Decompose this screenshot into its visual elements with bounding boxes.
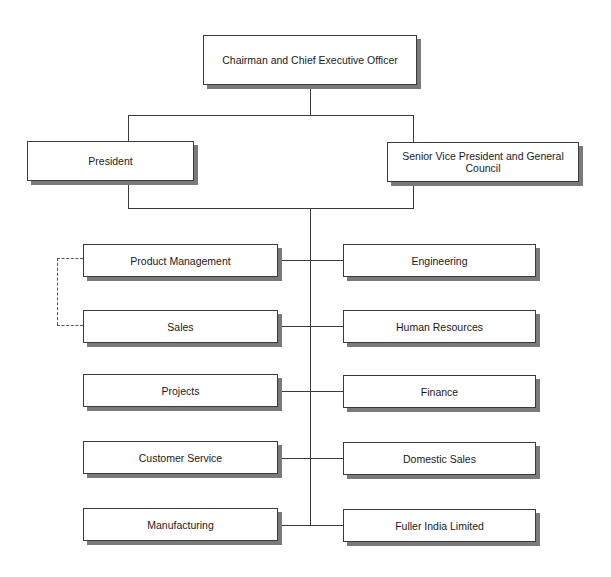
row-connector-2 <box>277 326 343 327</box>
dept-fuller-india-limited: Fuller India Limited <box>343 509 536 542</box>
row-connector-5 <box>277 525 343 526</box>
dept-finance: Finance <box>343 375 536 408</box>
dept-human-resources: Human Resources <box>343 310 536 343</box>
dept-label: Engineering <box>411 255 467 267</box>
row-connector-4 <box>277 458 343 459</box>
dept-sales: Sales <box>83 310 278 343</box>
dept-engineering: Engineering <box>343 244 536 277</box>
dept-domestic-sales: Domestic Sales <box>343 442 536 475</box>
svp-label: Senior Vice President and General Counci… <box>388 150 578 174</box>
dept-label: Manufacturing <box>147 519 214 531</box>
ceo-connector <box>310 85 311 115</box>
dotted-connector-vertical <box>57 258 58 325</box>
row-connector-1 <box>277 260 343 261</box>
main-trunk-connector <box>310 208 311 526</box>
president-label: President <box>88 155 132 167</box>
dept-manufacturing: Manufacturing <box>83 508 278 541</box>
dept-label: Fuller India Limited <box>395 520 484 532</box>
dotted-connector-top <box>57 258 83 259</box>
ceo-box: Chairman and Chief Executive Officer <box>203 35 417 85</box>
dept-label: Product Management <box>130 255 230 267</box>
svp-general-council-box: Senior Vice President and General Counci… <box>387 142 579 182</box>
dept-label: Projects <box>162 385 200 397</box>
dept-label: Sales <box>167 321 193 333</box>
row-connector-3 <box>277 391 343 392</box>
dept-label: Domestic Sales <box>403 453 476 465</box>
dept-customer-service: Customer Service <box>83 441 278 474</box>
dept-label: Customer Service <box>139 452 222 464</box>
president-box: President <box>27 141 194 181</box>
ceo-label: Chairman and Chief Executive Officer <box>222 54 397 66</box>
dept-label: Finance <box>421 386 458 398</box>
dept-product-management: Product Management <box>83 244 278 277</box>
dept-label: Human Resources <box>396 321 483 333</box>
dotted-connector-bottom <box>57 325 83 326</box>
dept-projects: Projects <box>83 374 278 407</box>
